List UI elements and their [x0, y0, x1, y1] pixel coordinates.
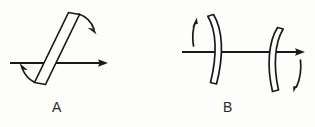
rotation-arrow-lower-left-shaft: [22, 68, 34, 82]
translation-arrow-down-right: [293, 60, 301, 93]
rotation-arrow-upper-right-shaft: [79, 14, 94, 29]
tilted-plate: [35, 13, 80, 85]
panel-a: A: [10, 13, 108, 116]
panel-a-optical-axis: [10, 59, 108, 66]
translation-arrow-up-left-head: [192, 18, 198, 28]
rotation-arrow-upper-right: [79, 14, 97, 35]
left-curved-mirror: [208, 15, 222, 85]
translation-arrow-up-left: [192, 18, 198, 47]
right-curved-mirror: [269, 28, 283, 92]
translation-arrow-down-right-head: [293, 83, 299, 93]
rotation-arrow-upper-right-head: [88, 28, 97, 35]
figure-root: A B: [0, 0, 315, 127]
panel-b-optical-axis: [182, 48, 305, 55]
panel-b-label: B: [223, 99, 233, 115]
panel-a-label: A: [52, 99, 62, 115]
optics-diagram: A B: [0, 0, 315, 127]
translation-arrow-down-right-shaft: [297, 60, 301, 87]
rotation-arrow-lower-left-head: [20, 63, 28, 70]
panel-b: B: [182, 15, 305, 116]
rotation-arrow-lower-left: [20, 63, 35, 82]
